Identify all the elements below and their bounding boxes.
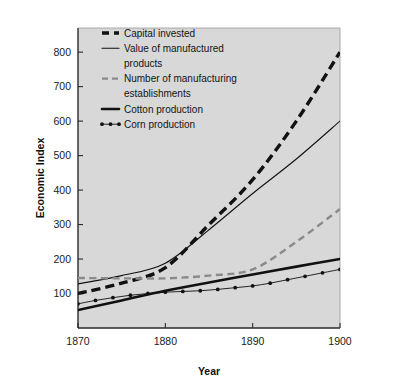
series-marker <box>163 290 167 294</box>
series-marker <box>76 302 80 306</box>
legend-label: Value of manufactured <box>124 43 224 54</box>
series-marker <box>129 293 133 297</box>
series-marker <box>111 296 115 300</box>
series-marker <box>338 267 342 271</box>
economic-index-line-chart: 100200300400500600700800 187018801890190… <box>0 0 394 387</box>
y-tick-label: 400 <box>53 184 71 196</box>
series-marker <box>181 290 185 294</box>
series-marker <box>216 287 220 291</box>
x-tick-label: 1880 <box>154 335 178 347</box>
y-tick-label: 200 <box>53 253 71 265</box>
chart-svg: 100200300400500600700800 187018801890190… <box>0 0 394 387</box>
series-marker <box>251 284 255 288</box>
legend-marker-sample <box>100 122 104 126</box>
legend-label: Cotton production <box>124 104 203 115</box>
y-tick-label: 300 <box>53 218 71 230</box>
series-marker <box>233 286 237 290</box>
legend-marker-sample <box>109 122 113 126</box>
series-marker <box>94 299 98 303</box>
series-marker <box>303 274 307 278</box>
series-marker <box>268 281 272 285</box>
legend-label: products <box>124 58 162 69</box>
y-tick-label: 800 <box>53 46 71 58</box>
series-marker <box>146 292 150 296</box>
legend-label: Capital invested <box>124 28 195 39</box>
y-tick-label: 700 <box>53 80 71 92</box>
x-tick-label: 1900 <box>328 335 352 347</box>
legend-label: establishments <box>124 88 191 99</box>
y-tick-label: 500 <box>53 149 71 161</box>
y-axis-title: Economic Index <box>34 138 46 219</box>
series-marker <box>198 289 202 293</box>
legend-label: Corn production <box>124 119 195 130</box>
x-tick-label: 1870 <box>66 335 90 347</box>
legend-marker-sample <box>117 122 121 126</box>
legend-label: Number of manufacturing <box>124 73 237 84</box>
y-tick-label: 600 <box>53 115 71 127</box>
y-tick-label: 100 <box>53 287 71 299</box>
x-axis-title: Year <box>198 365 220 377</box>
series-marker <box>286 278 290 282</box>
series-marker <box>321 271 325 275</box>
x-tick-label: 1890 <box>241 335 265 347</box>
